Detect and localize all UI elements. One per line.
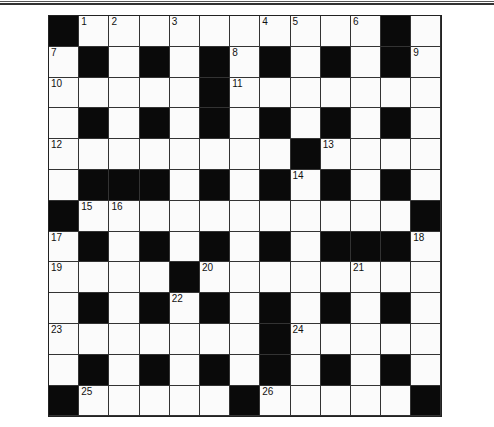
grid-cell[interactable]	[411, 355, 441, 386]
grid-cell[interactable]	[230, 108, 260, 139]
grid-cell[interactable]	[140, 262, 170, 293]
grid-cell[interactable]	[291, 108, 321, 139]
grid-cell[interactable]	[260, 262, 290, 293]
grid-cell[interactable]: 1	[79, 16, 109, 47]
grid-cell[interactable]	[291, 201, 321, 232]
grid-cell[interactable]	[411, 170, 441, 201]
grid-cell[interactable]	[170, 201, 200, 232]
grid-cell[interactable]	[291, 262, 321, 293]
grid-cell[interactable]	[260, 201, 290, 232]
grid-cell[interactable]	[109, 293, 139, 324]
grid-cell[interactable]	[381, 386, 411, 417]
grid-cell[interactable]: 5	[291, 16, 321, 47]
grid-cell[interactable]	[351, 47, 381, 78]
grid-cell[interactable]	[381, 262, 411, 293]
grid-cell[interactable]: 12	[49, 139, 79, 170]
grid-cell[interactable]	[411, 16, 441, 47]
grid-cell[interactable]	[200, 16, 230, 47]
grid-cell[interactable]	[381, 201, 411, 232]
grid-cell[interactable]	[351, 201, 381, 232]
grid-cell[interactable]	[230, 355, 260, 386]
grid-cell[interactable]	[170, 78, 200, 109]
grid-cell[interactable]	[170, 170, 200, 201]
grid-cell[interactable]	[321, 262, 351, 293]
grid-cell[interactable]	[79, 78, 109, 109]
grid-cell[interactable]: 20	[200, 262, 230, 293]
grid-cell[interactable]	[351, 355, 381, 386]
grid-cell[interactable]	[170, 386, 200, 417]
grid-cell[interactable]	[411, 78, 441, 109]
grid-cell[interactable]: 25	[79, 386, 109, 417]
grid-cell[interactable]	[49, 170, 79, 201]
grid-cell[interactable]: 13	[321, 139, 351, 170]
grid-cell[interactable]	[170, 108, 200, 139]
grid-cell[interactable]	[260, 78, 290, 109]
grid-cell[interactable]	[321, 324, 351, 355]
grid-cell[interactable]	[291, 355, 321, 386]
grid-cell[interactable]	[109, 386, 139, 417]
grid-cell[interactable]	[140, 386, 170, 417]
grid-cell[interactable]	[230, 293, 260, 324]
grid-cell[interactable]	[411, 324, 441, 355]
grid-cell[interactable]	[381, 139, 411, 170]
grid-cell[interactable]	[351, 386, 381, 417]
grid-cell[interactable]	[109, 355, 139, 386]
grid-cell[interactable]	[411, 293, 441, 324]
grid-cell[interactable]: 26	[260, 386, 290, 417]
grid-cell[interactable]	[79, 262, 109, 293]
grid-cell[interactable]: 7	[49, 47, 79, 78]
grid-cell[interactable]	[230, 170, 260, 201]
grid-cell[interactable]	[49, 108, 79, 139]
grid-cell[interactable]	[351, 78, 381, 109]
grid-cell[interactable]: 16	[109, 201, 139, 232]
grid-cell[interactable]	[49, 355, 79, 386]
grid-cell[interactable]	[200, 201, 230, 232]
grid-cell[interactable]: 22	[170, 293, 200, 324]
grid-cell[interactable]: 15	[79, 201, 109, 232]
grid-cell[interactable]	[140, 78, 170, 109]
grid-cell[interactable]	[79, 139, 109, 170]
grid-cell[interactable]	[140, 16, 170, 47]
grid-cell[interactable]	[109, 262, 139, 293]
grid-cell[interactable]	[200, 139, 230, 170]
grid-cell[interactable]	[351, 108, 381, 139]
grid-cell[interactable]	[230, 16, 260, 47]
grid-cell[interactable]: 9	[411, 47, 441, 78]
grid-cell[interactable]	[140, 201, 170, 232]
grid-cell[interactable]	[230, 201, 260, 232]
grid-cell[interactable]	[200, 324, 230, 355]
grid-cell[interactable]	[321, 78, 351, 109]
grid-cell[interactable]	[351, 324, 381, 355]
grid-cell[interactable]: 3	[170, 16, 200, 47]
grid-cell[interactable]	[351, 170, 381, 201]
grid-cell[interactable]	[170, 324, 200, 355]
grid-cell[interactable]	[411, 262, 441, 293]
grid-cell[interactable]	[230, 262, 260, 293]
grid-cell[interactable]	[381, 78, 411, 109]
grid-cell[interactable]	[170, 355, 200, 386]
grid-cell[interactable]	[109, 139, 139, 170]
grid-cell[interactable]	[321, 386, 351, 417]
grid-cell[interactable]	[170, 139, 200, 170]
grid-cell[interactable]	[351, 139, 381, 170]
grid-cell[interactable]	[200, 386, 230, 417]
grid-cell[interactable]: 14	[291, 170, 321, 201]
grid-cell[interactable]	[109, 324, 139, 355]
grid-cell[interactable]: 24	[291, 324, 321, 355]
grid-cell[interactable]	[321, 16, 351, 47]
grid-cell[interactable]: 19	[49, 262, 79, 293]
grid-cell[interactable]: 17	[49, 232, 79, 263]
grid-cell[interactable]: 6	[351, 16, 381, 47]
grid-cell[interactable]: 4	[260, 16, 290, 47]
grid-cell[interactable]	[291, 293, 321, 324]
grid-cell[interactable]: 21	[351, 262, 381, 293]
grid-cell[interactable]	[291, 78, 321, 109]
grid-cell[interactable]	[109, 47, 139, 78]
grid-cell[interactable]	[260, 139, 290, 170]
grid-cell[interactable]	[291, 386, 321, 417]
grid-cell[interactable]	[140, 324, 170, 355]
grid-cell[interactable]	[79, 324, 109, 355]
grid-cell[interactable]	[109, 108, 139, 139]
grid-cell[interactable]	[411, 139, 441, 170]
grid-cell[interactable]	[411, 108, 441, 139]
